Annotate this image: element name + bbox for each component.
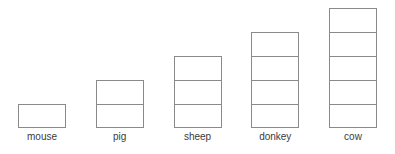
bar-group	[329, 8, 377, 128]
bar-unit-cell	[329, 32, 377, 56]
bar-group	[174, 56, 222, 128]
category-label: mouse	[18, 130, 66, 143]
bar-group	[18, 104, 66, 128]
bar-unit-cell	[329, 80, 377, 104]
bars-row	[0, 0, 395, 128]
bar-unit-cell	[18, 104, 66, 128]
bar-unit-cell	[96, 104, 144, 128]
unit-bar-chart: mousepigsheepdonkeycow	[0, 0, 395, 154]
bar-group	[96, 80, 144, 128]
bar-unit-cell	[174, 56, 222, 80]
bar	[174, 56, 222, 128]
bar	[329, 8, 377, 128]
category-label: sheep	[174, 130, 222, 143]
bar	[96, 80, 144, 128]
category-label: donkey	[251, 130, 299, 143]
category-labels-row: mousepigsheepdonkeycow	[0, 130, 395, 154]
bar-unit-cell	[251, 56, 299, 80]
bar-unit-cell	[329, 104, 377, 128]
bar-unit-cell	[329, 56, 377, 80]
bar-unit-cell	[251, 104, 299, 128]
bar-group	[251, 32, 299, 128]
bar-unit-cell	[251, 80, 299, 104]
category-label: pig	[96, 130, 144, 143]
bar	[251, 32, 299, 128]
category-label: cow	[329, 130, 377, 143]
bar-unit-cell	[251, 32, 299, 56]
bar-unit-cell	[96, 80, 144, 104]
bar-unit-cell	[174, 104, 222, 128]
bar-unit-cell	[174, 80, 222, 104]
bar-unit-cell	[329, 8, 377, 32]
bar	[18, 104, 66, 128]
